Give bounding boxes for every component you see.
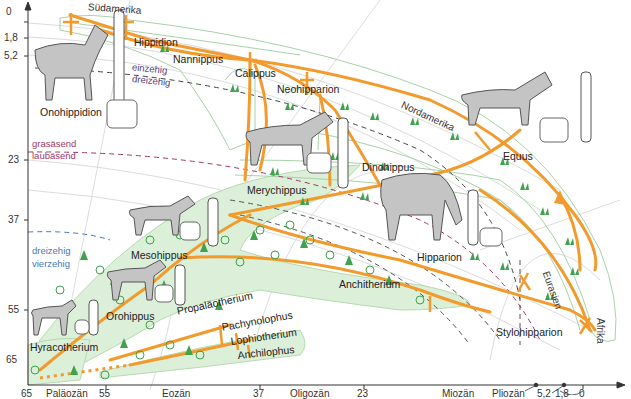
y-tick-1-8: 1,8	[4, 33, 18, 43]
y-tick-0: 0	[6, 7, 12, 17]
x-tick-5-2: 5,2	[537, 389, 551, 399]
genus-merychippus: Merychippus	[247, 185, 307, 196]
y-tick-23: 23	[8, 155, 19, 165]
x-tick-55: 55	[99, 389, 110, 399]
three-four-toe-boundary	[28, 232, 110, 240]
onohippidion-horse-icon	[35, 25, 108, 100]
genus-hipparion: Hipparion	[417, 252, 462, 263]
genus-stylohipparion: Stylohipparion	[496, 327, 563, 338]
epoch-eocene: Eozän	[162, 389, 190, 399]
label-browsing: laubäsend	[32, 151, 76, 161]
label-grazing: grasäsend	[32, 139, 76, 149]
genus-onohippidion: Onohippidion	[40, 107, 102, 118]
x-tick-65: 65	[21, 389, 32, 399]
region-africa: Afrika	[595, 318, 605, 344]
genus-dinohippus: Dinohippus	[362, 162, 415, 173]
genus-anchitherium: Anchitherium	[339, 279, 400, 290]
label-three-toed-lower: dreizehig	[32, 246, 71, 256]
genus-nannippus: Nannippus	[173, 54, 223, 65]
y-tick-37: 37	[8, 215, 19, 225]
epoch-miocene: Miozän	[442, 389, 474, 399]
epoch-pliocene: Pliozän	[492, 389, 525, 399]
y-tick-55: 55	[8, 305, 19, 315]
y-tick-5-2: 5,2	[4, 51, 18, 61]
x-tick-1-8: 1,8	[555, 389, 569, 399]
x-tick-37: 37	[253, 389, 264, 399]
genus-hippidion: Hippidion	[134, 37, 178, 48]
label-four-toed: vierzehig	[32, 259, 70, 269]
hipparion-horse-icon	[381, 173, 462, 240]
equus-horse-icon	[462, 72, 552, 125]
y-tick-65: 65	[6, 355, 17, 365]
genus-orohippus: Orohippus	[106, 311, 154, 322]
genus-mesohippus: Mesohippus	[131, 250, 188, 261]
x-tick-0: 0	[579, 389, 585, 399]
genus-equus: Equus	[503, 151, 533, 162]
genus-neohipparion: Neohipparion	[277, 84, 339, 95]
epoch-oligocene: Oligozän	[290, 389, 329, 399]
genus-hyracotherium: Hyracotherium	[30, 342, 98, 353]
genus-calippus: Calippus	[235, 68, 276, 79]
epoch-paleocene: Paläozän	[46, 389, 88, 399]
x-tick-23: 23	[357, 389, 368, 399]
